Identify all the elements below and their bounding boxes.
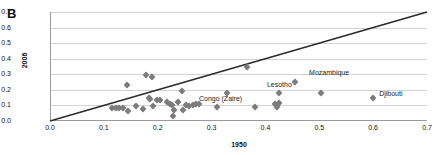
x-tick-label: 0.3 xyxy=(197,124,227,131)
plot-area: MozambiqueLesothoCongo (Zaire)Djibouti xyxy=(50,12,427,121)
y-tick-label: 0.2 xyxy=(0,86,11,93)
x-tick-label: 0.7 xyxy=(412,124,442,131)
y-tick-label: 0.3 xyxy=(0,70,11,77)
x-tick-label: 0.1 xyxy=(89,124,119,131)
y-tick-label: 0.5 xyxy=(0,39,11,46)
point-annotation: Djibouti xyxy=(379,90,402,97)
point-annotation: Congo (Zaire) xyxy=(199,95,242,102)
x-tick-label: 0.0 xyxy=(35,124,65,131)
y-tick-label: 0.7 xyxy=(0,8,11,15)
x-tick-label: 0.6 xyxy=(358,124,388,131)
y-axis-title: 2006 xyxy=(21,31,28,91)
y-tick-label: 0.4 xyxy=(0,55,11,62)
x-tick-label: 0.2 xyxy=(143,124,173,131)
x-axis-title: 1950 xyxy=(50,141,428,148)
scatter-chart-panel-b: B 2006 1950 0.00.10.20.30.40.50.60.7 0.0… xyxy=(0,0,443,155)
point-annotation: Lesotho xyxy=(267,81,292,88)
x-tick-label: 0.5 xyxy=(304,124,334,131)
x-tick-label: 0.4 xyxy=(250,124,280,131)
y-tick-label: 0.6 xyxy=(0,24,11,31)
reference-line-y-equals-x xyxy=(50,12,427,121)
point-annotation: Mozambique xyxy=(309,69,349,76)
y-tick-label: 0.0 xyxy=(0,117,11,124)
y-tick-label: 0.1 xyxy=(0,101,11,108)
